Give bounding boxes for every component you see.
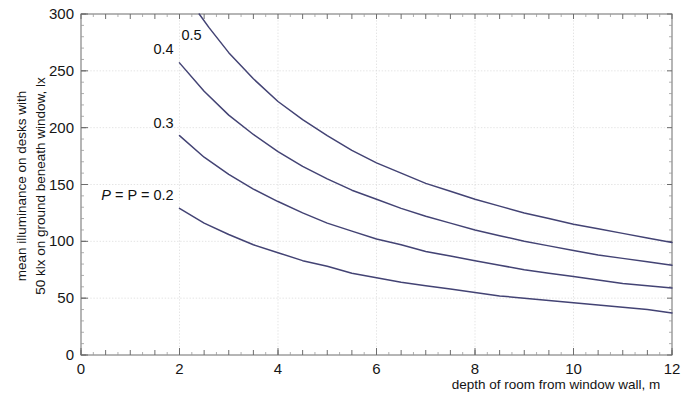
y-tick-label: 250 [49,62,74,79]
x-tick-label: 12 [664,360,681,377]
x-tick-label: 6 [372,360,380,377]
y-tick-label: 200 [49,119,74,136]
illuminance-vs-room-depth-chart: 050100150200250300 024681012 0.50.40.3P … [0,0,687,402]
y-axis-title-line1: mean illuminance on desks with [14,91,29,282]
curve-0.5 [199,14,672,242]
curve-label-0.3: 0.3 [153,115,173,131]
curve-label-0.4: 0.4 [153,41,173,57]
x-tick-label: 10 [565,360,582,377]
curve-0.3 [180,136,673,288]
curve-label-0.2: P = P = 0.2 [101,187,173,203]
x-tick-label: 2 [175,360,183,377]
x-tick-label: 0 [77,360,85,377]
x-axis-tick-labels: 024681012 [77,360,681,377]
y-tick-label: 300 [49,5,74,22]
chart-figure: 050100150200250300 024681012 0.50.40.3P … [0,0,687,402]
y-tick-label: 100 [49,232,74,249]
y-tick-label: 0 [66,346,74,363]
x-tick-label: 8 [471,360,479,377]
y-tick-label: 50 [57,289,74,306]
y-axis-tick-labels: 050100150200250300 [49,5,74,363]
y-axis-title-line2: 50 klx on ground beneath window, lx [33,77,48,295]
x-tick-label: 4 [274,360,282,377]
curve-labels: 0.50.40.3P = P = 0.2 [101,27,201,203]
y-tick-label: 150 [49,176,74,193]
curve-label-0.5: 0.5 [181,27,201,43]
x-axis-title: depth of room from window wall, m [452,377,661,392]
curve-0.2 [180,208,673,313]
curve-0.4 [180,63,673,265]
data-curves [180,14,673,313]
